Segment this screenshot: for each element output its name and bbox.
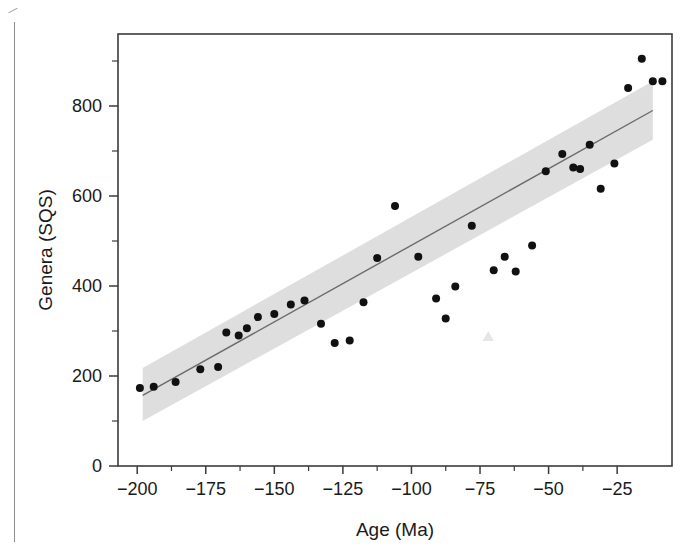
data-point	[196, 365, 204, 373]
faint-triangle-artifact	[483, 331, 494, 341]
data-point	[235, 332, 243, 340]
figure-panel: −200−175−150−125−100−75−50−25 0200400600…	[0, 0, 700, 560]
data-point	[442, 314, 450, 322]
data-point	[542, 167, 550, 175]
x-tick-label: −125	[323, 479, 364, 499]
y-tick-label: 0	[92, 456, 102, 476]
data-point	[136, 384, 144, 392]
x-tick-label: −150	[254, 479, 295, 499]
data-point	[638, 55, 646, 63]
data-point	[576, 165, 584, 173]
data-point	[254, 313, 262, 321]
data-point	[586, 141, 594, 149]
faint-triangle-marker	[483, 331, 494, 341]
data-point	[512, 268, 520, 276]
x-tick-label: −200	[117, 479, 158, 499]
data-point	[301, 296, 309, 304]
y-tick-label: 200	[72, 366, 102, 386]
data-point	[346, 336, 354, 344]
x-tick-label: −50	[533, 479, 564, 499]
data-point	[569, 164, 577, 172]
data-point	[610, 160, 618, 168]
y-axis-label: Genera (SQS)	[35, 189, 56, 310]
data-point	[222, 328, 230, 336]
x-tick-label: −75	[465, 479, 496, 499]
data-point	[649, 77, 657, 85]
data-point	[558, 150, 566, 158]
data-point	[468, 222, 476, 230]
data-point	[360, 298, 368, 306]
data-point	[414, 253, 422, 261]
x-tick-label: −25	[602, 479, 633, 499]
data-point	[331, 339, 339, 347]
trend-line-group	[143, 111, 653, 396]
data-point	[150, 383, 158, 391]
y-axis-ticks	[109, 61, 118, 466]
data-point	[172, 378, 180, 386]
x-axis-tick-labels: −200−175−150−125−100−75−50−25	[117, 479, 632, 499]
data-point	[317, 320, 325, 328]
data-point	[490, 266, 498, 274]
x-axis-label: Age (Ma)	[356, 519, 434, 540]
y-tick-label: 400	[72, 276, 102, 296]
data-point	[624, 84, 632, 92]
data-point	[658, 77, 666, 85]
data-point	[214, 363, 222, 371]
data-point	[432, 295, 440, 303]
data-point	[597, 185, 605, 193]
x-tick-label: −100	[391, 479, 432, 499]
x-tick-label: −175	[185, 479, 226, 499]
y-tick-label: 600	[72, 186, 102, 206]
data-point	[451, 282, 459, 290]
data-point	[391, 202, 399, 210]
data-point	[287, 300, 295, 308]
data-point	[501, 253, 509, 261]
y-axis-tick-labels: 0200400600800	[72, 96, 102, 476]
data-point	[528, 242, 536, 250]
data-point	[243, 324, 251, 332]
scatter-plot: −200−175−150−125−100−75−50−25 0200400600…	[0, 0, 700, 560]
data-point	[270, 310, 278, 318]
x-axis-ticks	[137, 466, 617, 474]
y-tick-label: 800	[72, 96, 102, 116]
data-point	[373, 254, 381, 262]
regression-line	[143, 111, 653, 396]
